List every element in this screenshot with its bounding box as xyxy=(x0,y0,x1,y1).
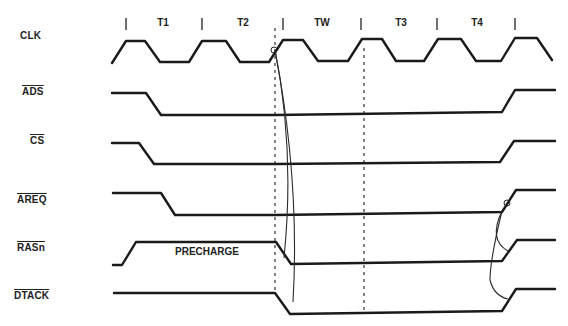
dtack-waveform xyxy=(114,289,555,314)
period-label-t1: T1 xyxy=(157,17,169,28)
dashed-reference-lines xyxy=(275,28,364,312)
signal-label-dtack: DTACK xyxy=(14,290,49,301)
timing-diagram xyxy=(0,0,568,326)
ads-waveform xyxy=(112,90,555,115)
period-label-tw: TW xyxy=(314,17,330,28)
clk-waveform xyxy=(112,38,552,63)
signal-label-clk: CLK xyxy=(20,30,41,41)
causal-arrow-areq-rise-to-rasn-rise xyxy=(496,211,508,251)
period-label-t4: T4 xyxy=(471,17,483,28)
period-label-t3: T3 xyxy=(395,17,407,28)
areq-waveform xyxy=(113,190,555,215)
period-label-t2: T2 xyxy=(237,17,249,28)
cs-waveform xyxy=(112,141,555,164)
signal-label-cs: CS xyxy=(30,135,44,146)
signal-label-rasn: RASn xyxy=(17,242,45,253)
signal-label-ads: ADS xyxy=(22,86,44,97)
signal-label-areq: AREQ xyxy=(17,194,47,205)
annotation-precharge: PRECHARGE xyxy=(175,246,239,257)
causal-arrow-clk-rise-T2-to-rasn-fall xyxy=(275,50,288,258)
